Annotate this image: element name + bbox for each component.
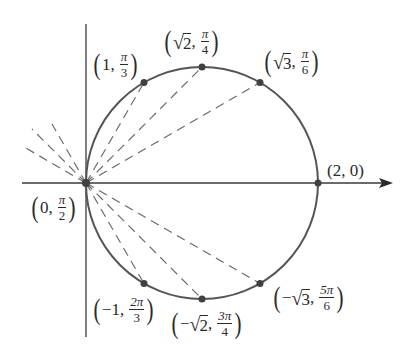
fraction: 5π 6 bbox=[319, 283, 334, 312]
point-negsqrt3-5pi6 bbox=[257, 280, 264, 287]
point-sqrt3-pi6 bbox=[257, 79, 264, 86]
denominator: 4 bbox=[202, 42, 209, 56]
numerator: π bbox=[58, 193, 67, 208]
sqrt: √2 bbox=[173, 32, 191, 52]
denominator: 3 bbox=[134, 310, 141, 324]
numerator: π bbox=[301, 47, 310, 62]
minus-sign: − bbox=[282, 289, 292, 306]
point-neg1-2pi3 bbox=[141, 280, 148, 287]
point-sqrt2-pi4 bbox=[199, 64, 206, 71]
ray-5pi6-ext bbox=[24, 147, 86, 183]
comma: , bbox=[310, 289, 314, 306]
ray-pi6 bbox=[86, 83, 260, 184]
label-text: (2, 0) bbox=[327, 162, 364, 179]
comma: , bbox=[291, 53, 295, 70]
label-1-pi3: ( 1, π 3 ) bbox=[92, 50, 139, 79]
paren-open: ( bbox=[94, 294, 101, 324]
paren-open: ( bbox=[172, 308, 179, 338]
paren-close: ) bbox=[69, 192, 76, 222]
paren-open: ( bbox=[32, 192, 39, 222]
comma: , bbox=[111, 56, 115, 73]
label-sqrt2-pi4: ( √2, π 4 ) bbox=[163, 27, 220, 56]
fraction: 3π 4 bbox=[217, 309, 232, 338]
numerator: π bbox=[120, 50, 129, 65]
numerator: π bbox=[201, 27, 210, 42]
point-1-pi3 bbox=[141, 79, 148, 86]
label-r: −1 bbox=[102, 301, 120, 318]
label-negsqrt2-3pi4: ( − √2, 3π 4 ) bbox=[170, 309, 243, 338]
point-pole bbox=[82, 179, 90, 187]
radicand: 2 bbox=[183, 33, 192, 52]
paren-open: ( bbox=[94, 49, 101, 79]
label-neg1-2pi3: ( −1, 2π 3 ) bbox=[92, 295, 155, 324]
numerator: 3π bbox=[217, 309, 232, 324]
paren-close: ) bbox=[131, 49, 138, 79]
denominator: 4 bbox=[222, 324, 229, 338]
fraction: 2π 3 bbox=[129, 295, 144, 324]
ray-2pi3 bbox=[86, 183, 144, 284]
fraction: π 2 bbox=[58, 193, 67, 222]
numerator: 2π bbox=[129, 295, 144, 310]
paren-open: ( bbox=[265, 46, 272, 76]
paren-open: ( bbox=[165, 26, 172, 56]
comma: , bbox=[191, 33, 195, 50]
label-2-0: (2, 0) bbox=[327, 162, 364, 179]
point-2-0 bbox=[315, 180, 322, 187]
sqrt: √3 bbox=[273, 52, 291, 72]
label-r: 1 bbox=[102, 56, 111, 73]
fraction: π 4 bbox=[201, 27, 210, 56]
point-negsqrt2-3pi4 bbox=[199, 296, 206, 303]
comma: , bbox=[49, 199, 53, 216]
fraction: π 3 bbox=[120, 50, 129, 79]
radicand: 3 bbox=[283, 53, 292, 72]
comma: , bbox=[208, 315, 212, 332]
label-r: 0 bbox=[40, 199, 49, 216]
label-negsqrt3-5pi6: ( − √3, 5π 6 ) bbox=[272, 283, 345, 312]
denominator: 6 bbox=[302, 62, 309, 76]
fraction: π 6 bbox=[301, 47, 310, 76]
denominator: 3 bbox=[121, 65, 128, 79]
paren-close: ) bbox=[235, 308, 242, 338]
paren-close: ) bbox=[337, 282, 344, 312]
denominator: 2 bbox=[59, 208, 66, 222]
sqrt: √2 bbox=[190, 314, 208, 334]
numerator: 5π bbox=[319, 283, 334, 298]
label-sqrt3-pi6: ( √3, π 6 ) bbox=[263, 47, 320, 76]
comma: , bbox=[120, 301, 124, 318]
minus-sign: − bbox=[180, 315, 190, 332]
radicand: 3 bbox=[302, 289, 311, 308]
label-0-pi2: ( 0, π 2 ) bbox=[30, 193, 77, 222]
denominator: 6 bbox=[324, 298, 331, 312]
ray-pi3 bbox=[86, 83, 144, 184]
radicand: 2 bbox=[200, 315, 209, 334]
paren-close: ) bbox=[212, 26, 219, 56]
sqrt: √3 bbox=[292, 288, 310, 308]
paren-close: ) bbox=[312, 46, 319, 76]
ray-5pi6 bbox=[86, 183, 260, 284]
paren-close: ) bbox=[147, 294, 154, 324]
paren-open: ( bbox=[274, 282, 281, 312]
ray-2pi3-ext bbox=[52, 124, 86, 183]
